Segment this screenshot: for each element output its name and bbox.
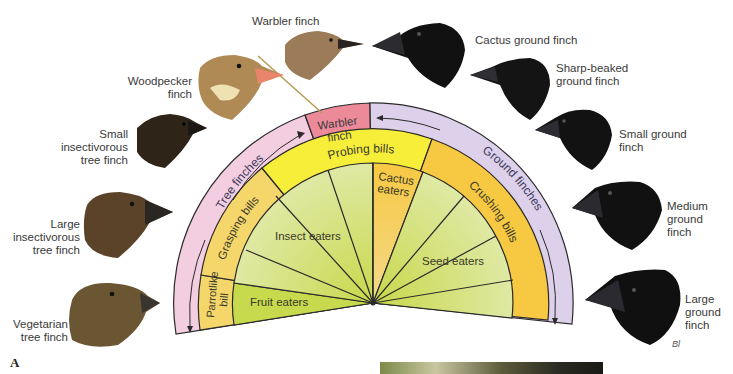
cactus-ground-finch-label: Cactus ground finch	[475, 34, 615, 47]
finch-photo-partial	[380, 362, 603, 374]
medium-ground-finch-label: Mediumgroundfinch	[667, 200, 727, 239]
small-insectivorous-finch-head-icon	[137, 114, 207, 168]
vegetarian-finch-head-icon	[69, 283, 160, 347]
small-ground-finch-label: Small groundfinch	[619, 128, 699, 154]
medium-ground-finch-head-icon	[572, 182, 662, 250]
warbler-finch-head-icon	[285, 31, 364, 80]
warbler-finch-label: Warbler finch	[252, 15, 352, 28]
sharp-beaked-ground-finch-head-icon	[470, 58, 550, 120]
artist-signature: Bl	[672, 339, 681, 349]
finch-diagram: Tree finches Ground finches Grasping bil…	[0, 0, 733, 374]
large-insectivorous-tree-finch-label: Largeinsectivoroustree finch	[8, 218, 80, 257]
small-ground-finch-head-icon	[535, 110, 612, 170]
seed-eaters-label: Seed eaters	[422, 255, 484, 267]
woodpecker-finch-label: Woodpeckerfinch	[120, 75, 192, 101]
beak-diet-fan: Tree finches Ground finches Grasping bil…	[174, 103, 574, 334]
vegetarian-tree-finch-label: Vegetariantree finch	[8, 318, 68, 344]
insect-eaters-label: Insect eaters	[275, 230, 341, 242]
large-insectivorous-finch-head-icon	[84, 192, 173, 258]
woodpecker-finch-head-icon	[198, 55, 284, 120]
parrotlike-label-2: bill	[217, 293, 230, 307]
fruit-eaters-label: Fruit eaters	[250, 296, 308, 308]
sharp-beaked-ground-finch-label: Sharp-beakedground finch	[556, 62, 656, 88]
panel-label: A	[10, 355, 19, 371]
cactus-ground-finch-head-icon	[372, 23, 465, 88]
small-insectivorous-tree-finch-label: Smallinsectivoroustree finch	[58, 128, 128, 167]
large-ground-finch-label: Largegroundfinch	[685, 293, 733, 332]
large-ground-finch-head-icon	[585, 270, 680, 345]
